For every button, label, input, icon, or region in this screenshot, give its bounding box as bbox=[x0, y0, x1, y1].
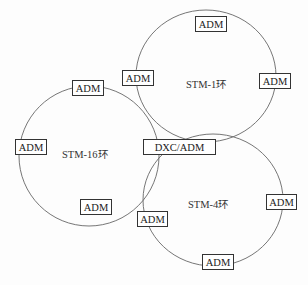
adm-node-stm4-right: ADM bbox=[266, 194, 297, 210]
adm-node-stm1-left: ADM bbox=[122, 70, 154, 86]
sdh-network-diagram: ADM ADM ADM STM-1环 ADM ADM ADM STM-16环 D… bbox=[0, 0, 308, 285]
adm-node-stm4-left: ADM bbox=[137, 211, 168, 227]
adm-node-stm16-left: ADM bbox=[15, 139, 47, 155]
stm16-ring-label: STM-16环 bbox=[62, 146, 108, 161]
adm-node-stm4-bottom: ADM bbox=[202, 254, 234, 270]
adm-node-stm16-top: ADM bbox=[72, 80, 104, 96]
adm-node-stm1-right: ADM bbox=[259, 73, 291, 89]
adm-node-stm1-top: ADM bbox=[195, 16, 227, 32]
adm-node-stm16-bottom: ADM bbox=[80, 199, 112, 215]
dxc-adm-hub-node: DXC/ADM bbox=[143, 139, 216, 155]
stm1-ring-label: STM-1环 bbox=[186, 76, 226, 91]
stm4-ring-label: STM-4环 bbox=[188, 196, 228, 211]
